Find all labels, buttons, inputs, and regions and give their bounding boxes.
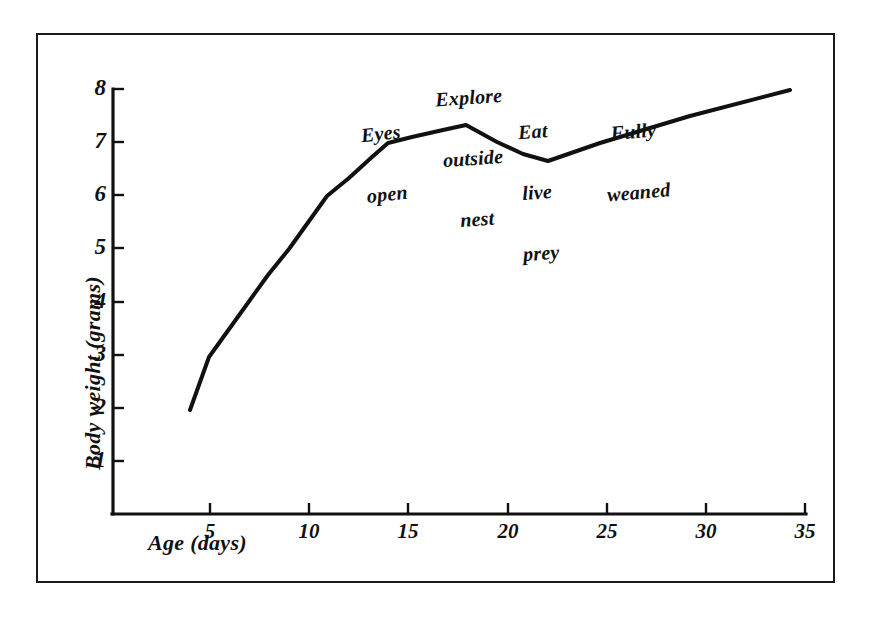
x-tick-label-10: 10 xyxy=(287,521,331,542)
annotation-weaned-line2: weaned xyxy=(590,178,687,207)
y-axis-ticks xyxy=(113,89,124,461)
x-tick-label-15: 15 xyxy=(386,521,430,542)
x-axis-title: Age (days) xyxy=(148,532,247,554)
annotation-weaned-line1: Fully xyxy=(585,117,682,146)
x-tick-label-30: 30 xyxy=(684,521,728,542)
x-tick-label-25: 25 xyxy=(585,521,629,542)
y-tick-label-5: 5 xyxy=(76,235,106,258)
annotation-eat-line2: live xyxy=(507,180,566,204)
y-axis-title: Body weight (grams) xyxy=(82,276,104,470)
x-tick-label-20: 20 xyxy=(486,521,530,542)
x-tick-label-35: 35 xyxy=(783,521,827,542)
figure-canvas: 8 7 6 5 4 3 2 1 5 10 15 20 25 30 35 Body… xyxy=(0,0,871,623)
annotation-eyes-open-line1: Eyes xyxy=(342,119,420,147)
y-tick-label-8: 8 xyxy=(76,76,106,99)
x-axis-ticks xyxy=(210,503,805,514)
y-tick-label-6: 6 xyxy=(76,182,106,205)
annotation-eat-line3: prey xyxy=(512,241,571,265)
y-tick-label-7: 7 xyxy=(76,129,106,152)
annotation-eyes-open-line2: open xyxy=(348,180,426,208)
annotation-fully-weaned: Fully weaned xyxy=(581,76,691,247)
annotation-eat-line1: Eat xyxy=(503,119,562,143)
